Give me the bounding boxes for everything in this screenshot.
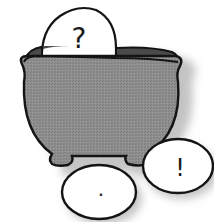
period-glyph: . (98, 177, 104, 201)
question-mark-glyph: ? (72, 22, 87, 55)
exclamation-glyph: ! (175, 154, 185, 182)
question-egg: ? (42, 8, 116, 62)
period-egg: . (62, 165, 136, 219)
cauldron-illustration: ? . ! (0, 0, 214, 222)
exclamation-egg: ! (143, 139, 213, 193)
